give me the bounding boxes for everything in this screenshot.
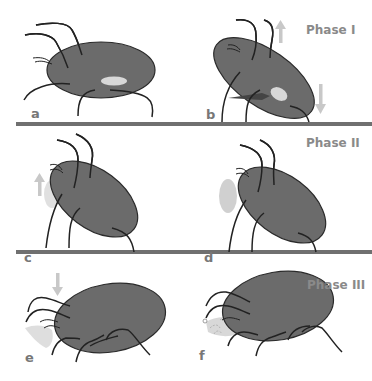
mite-body [49,275,171,361]
panel-label-b: b [206,107,215,122]
panel-a: a [24,23,155,121]
divider-phase-1 [16,122,372,126]
panel-label-d: d [204,250,213,265]
panel-c: c [24,134,151,265]
panel-e: e [25,273,171,365]
panel-label-f: f [199,348,205,363]
droplet [219,179,237,213]
mite-body [217,263,339,349]
droplet-residue [25,326,53,348]
phase-label-2: Phase II [306,136,360,150]
divider-phase-2 [16,250,372,254]
panel-f: Phase III f [199,263,365,363]
panel-label-a: a [31,106,40,121]
arrow-down-icon [56,273,60,289]
mite-body [225,152,340,259]
mite-body [47,42,155,98]
arrow-up-icon [38,180,42,196]
phase-label-3: Phase III [307,278,365,292]
diagram-canvas: a Phase I b c [0,0,372,381]
highlight-spot [101,77,127,86]
panel-label-c: c [24,250,32,265]
mite-body [200,22,327,134]
panel-label-e: e [25,350,34,365]
arrow-up-icon [279,27,283,43]
arrow-down-icon [319,84,323,106]
panel-b: Phase I b [200,20,355,135]
phase-label-1: Phase I [306,23,355,37]
panel-d: Phase II d [204,136,360,265]
